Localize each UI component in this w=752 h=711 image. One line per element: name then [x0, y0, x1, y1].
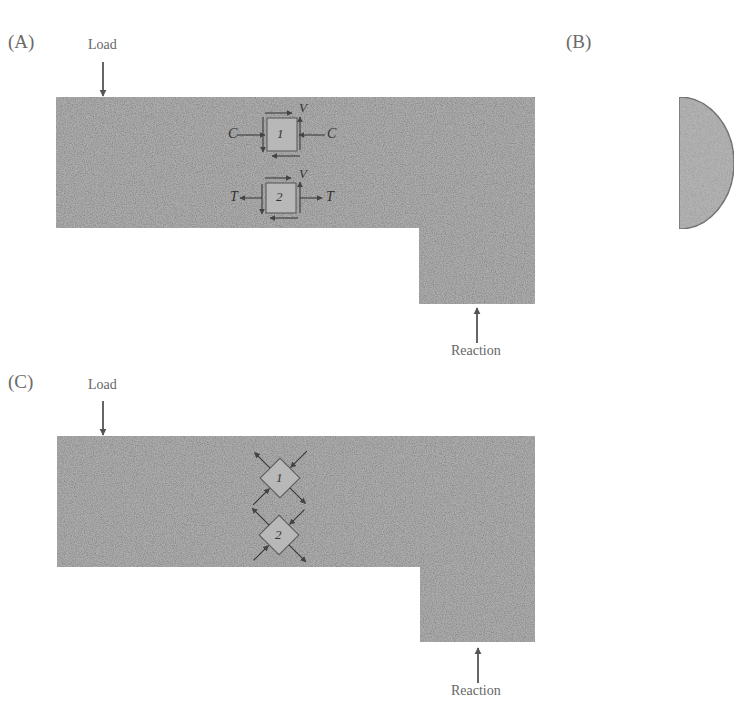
force-label-c-right: C: [327, 126, 336, 142]
element-1-id-a: 1: [277, 126, 284, 142]
shear-label-v-1: V: [299, 100, 307, 116]
shear-label-v-2: V: [299, 166, 307, 182]
force-label-c-left: C: [228, 126, 237, 142]
element-1-id-c: 1: [276, 470, 283, 486]
element-2-id-a: 2: [276, 189, 283, 205]
load-label-a: Load: [88, 37, 117, 53]
panel-label-a: (A): [8, 31, 34, 53]
panel-label-c: (C): [8, 371, 33, 393]
load-label-c: Load: [88, 377, 117, 393]
panel-label-b: (B): [566, 31, 591, 53]
half-disc-cross-section: [679, 97, 734, 229]
reaction-label-c: Reaction: [451, 683, 501, 699]
panel-c-beam: [57, 436, 535, 642]
diagram-canvas: [0, 0, 752, 711]
force-label-t-right: T: [326, 189, 334, 205]
element-2-id-c: 2: [275, 527, 282, 543]
force-label-t-left: T: [230, 189, 238, 205]
reaction-label-a: Reaction: [451, 343, 501, 359]
